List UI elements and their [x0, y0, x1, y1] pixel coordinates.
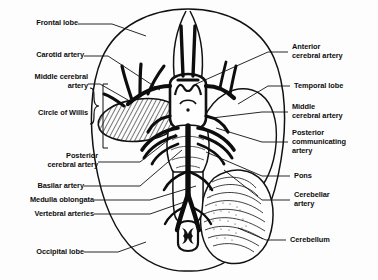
- label-medulla-oblongata: Medulla oblongata: [0, 195, 94, 204]
- label-carotid-artery: Carotid artery: [0, 50, 84, 59]
- brain-anatomy-figure: Frontal lobe Carotid artery Middle cereb…: [0, 0, 378, 280]
- label-posterior-communicating-artery: Posterior communicating artery: [292, 128, 378, 156]
- cerebellum: [201, 170, 274, 263]
- anterior-cerebral-artery-right: [193, 26, 195, 76]
- label-basilar-artery: Basilar artery: [0, 181, 84, 190]
- label-cerebellar-artery: Cerebellar artery: [294, 190, 374, 208]
- label-middle-cerebral-artery: Middle cerebral artery: [0, 72, 88, 90]
- label-pons: Pons: [294, 171, 354, 180]
- label-middle-cerebral-artery-right: Middle cerebral artery: [292, 102, 378, 120]
- label-vertebral-arteries: Vertebral arteries: [0, 209, 94, 218]
- anterior-cerebral-artery-left: [181, 26, 183, 76]
- label-circle-of-willis: Circle of Willis: [0, 108, 88, 117]
- label-temporal-lobe: Temporal lobe: [294, 81, 378, 90]
- label-occipital-lobe: Occipital lobe: [0, 247, 84, 256]
- label-posterior-cerebral-artery: Posterior cerebral artery: [0, 151, 98, 169]
- label-cerebellum: Cerebellum: [290, 235, 374, 244]
- label-anterior-cerebral-artery: Anterior cerebral artery: [292, 42, 378, 60]
- label-frontal-lobe: Frontal lobe: [0, 18, 78, 27]
